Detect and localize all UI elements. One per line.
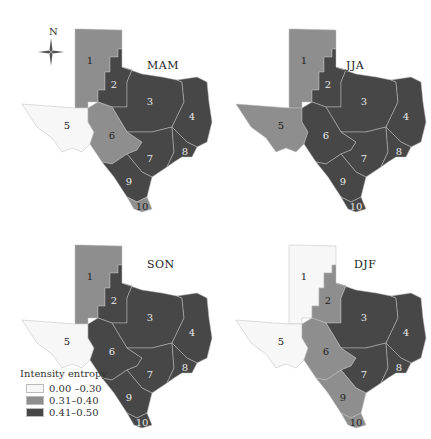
region-5 [22, 320, 94, 368]
region-label-10: 10 [136, 201, 149, 212]
region-label-8: 8 [396, 362, 402, 373]
region-label-5: 5 [64, 120, 70, 131]
region-label-1: 1 [87, 271, 93, 282]
region-label-5: 5 [278, 120, 284, 131]
season-label: JJA [346, 59, 364, 72]
region-label-3: 3 [361, 312, 367, 323]
season-label: SON [147, 258, 175, 271]
region-label-3: 3 [147, 96, 153, 107]
legend-label-high: 0.41–0.50 [49, 407, 99, 418]
region-label-8: 8 [182, 146, 188, 157]
region-label-5: 5 [64, 336, 70, 347]
region-label-9: 9 [126, 176, 132, 187]
region-label-6: 6 [109, 130, 115, 141]
region-label-9: 9 [340, 392, 346, 403]
map-panel-djf: 12345678910DJF [216, 218, 431, 437]
region-label-8: 8 [396, 146, 402, 157]
region-label-7: 7 [361, 153, 367, 164]
region-label-1: 1 [87, 55, 93, 66]
region-5 [236, 320, 308, 368]
region-label-4: 4 [403, 327, 409, 338]
region-label-9: 9 [126, 392, 132, 403]
legend-label-low: 0.00 –0.30 [49, 383, 102, 394]
region-label-6: 6 [109, 346, 115, 357]
region-label-6: 6 [323, 130, 329, 141]
region-label-3: 3 [147, 312, 153, 323]
region-label-4: 4 [403, 111, 409, 122]
legend-swatch-high [26, 408, 44, 417]
season-label: MAM [147, 59, 179, 72]
region-label-5: 5 [278, 336, 284, 347]
region-label-10: 10 [136, 417, 149, 428]
legend-item-mid: 0.31–0.40 [26, 394, 107, 406]
region-label-1: 1 [301, 55, 307, 66]
region-5 [236, 104, 308, 152]
legend-label-mid: 0.31–0.40 [49, 395, 99, 406]
region-label-7: 7 [147, 153, 153, 164]
region-label-4: 4 [189, 111, 195, 122]
region-label-6: 6 [323, 346, 329, 357]
legend: Intensity entropy 0.00 –0.30 0.31–0.40 0… [20, 368, 107, 418]
legend-title: Intensity entropy [20, 368, 107, 379]
map-panel-jja: 12345678910JJA [216, 2, 431, 221]
region-label-2: 2 [111, 79, 117, 90]
season-label: DJF [354, 258, 376, 271]
legend-item-high: 0.41–0.50 [26, 406, 107, 418]
region-label-8: 8 [182, 362, 188, 373]
region-label-7: 7 [361, 369, 367, 380]
legend-swatch-low [26, 384, 44, 393]
map-panel-mam: 12345678910MAM [2, 2, 217, 221]
region-label-9: 9 [340, 176, 346, 187]
region-5 [22, 104, 94, 152]
region-label-2: 2 [111, 295, 117, 306]
region-label-1: 1 [301, 271, 307, 282]
region-label-4: 4 [189, 327, 195, 338]
region-label-3: 3 [361, 96, 367, 107]
region-label-2: 2 [325, 295, 331, 306]
region-label-2: 2 [325, 79, 331, 90]
region-label-7: 7 [147, 369, 153, 380]
region-label-10: 10 [350, 201, 363, 212]
legend-item-low: 0.00 –0.30 [26, 382, 107, 394]
legend-swatch-mid [26, 396, 44, 405]
region-label-10: 10 [350, 417, 363, 428]
